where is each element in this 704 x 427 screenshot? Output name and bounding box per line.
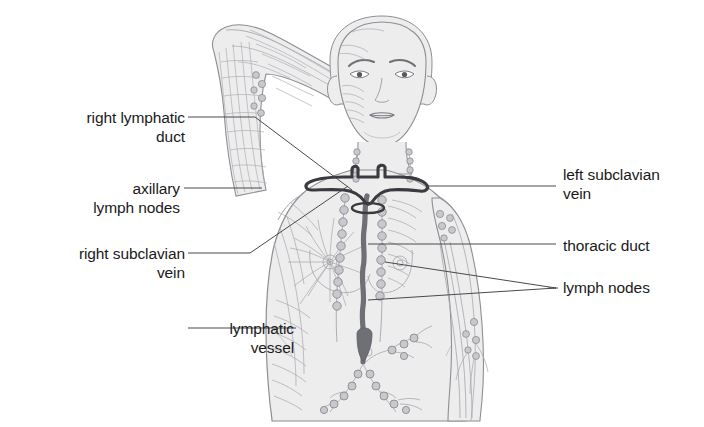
label-lymphatic-vessel: lymphatic vessel	[229, 319, 294, 357]
figure-body	[184, 16, 558, 421]
label-thoracic-duct: thoracic duct	[563, 236, 650, 255]
neck	[352, 142, 412, 174]
label-lymph-nodes: lymph nodes	[563, 278, 650, 297]
face	[338, 22, 426, 146]
label-right-lymphatic-duct: right lymphatic duct	[87, 108, 185, 146]
label-right-subclavian-vein: right subclavian vein	[79, 244, 185, 282]
lymphatic-system-figure: right lymphatic duct axillary lymph node…	[0, 0, 704, 427]
raised-arm	[213, 25, 349, 196]
label-left-subclavian-vein: left subclavian vein	[563, 165, 660, 203]
label-axillary-lymph-nodes: axillary lymph nodes	[93, 179, 180, 217]
head	[327, 16, 436, 174]
